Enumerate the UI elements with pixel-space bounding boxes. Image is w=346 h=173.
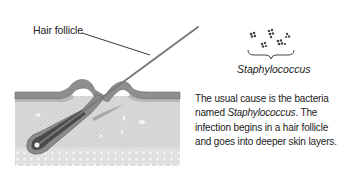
caption-line-2-suffix: . The xyxy=(295,107,317,118)
dermis-layer xyxy=(15,96,180,166)
caption-line-2-prefix: named xyxy=(195,107,227,118)
staphylococcus-label: Staphylococcus xyxy=(237,63,311,75)
caption-bacteria-name: Staphylococcus xyxy=(227,107,295,118)
caption-text: The usual cause is the bacteria named St… xyxy=(195,92,345,149)
caption-line-4: and goes into deeper skin layers. xyxy=(195,135,345,149)
caption-line-1: The usual cause is the bacteria xyxy=(195,92,345,106)
brace-icon xyxy=(248,50,294,59)
hair-follicle-label: Hair follicle xyxy=(33,24,83,36)
staphylococcus-bacteria-icon xyxy=(250,29,290,48)
caption-line-2: named Staphylococcus. The xyxy=(195,106,345,120)
caption-line-3: infection begins in a hair follicle xyxy=(195,121,345,135)
hair-follicle-leader-line xyxy=(82,33,150,55)
